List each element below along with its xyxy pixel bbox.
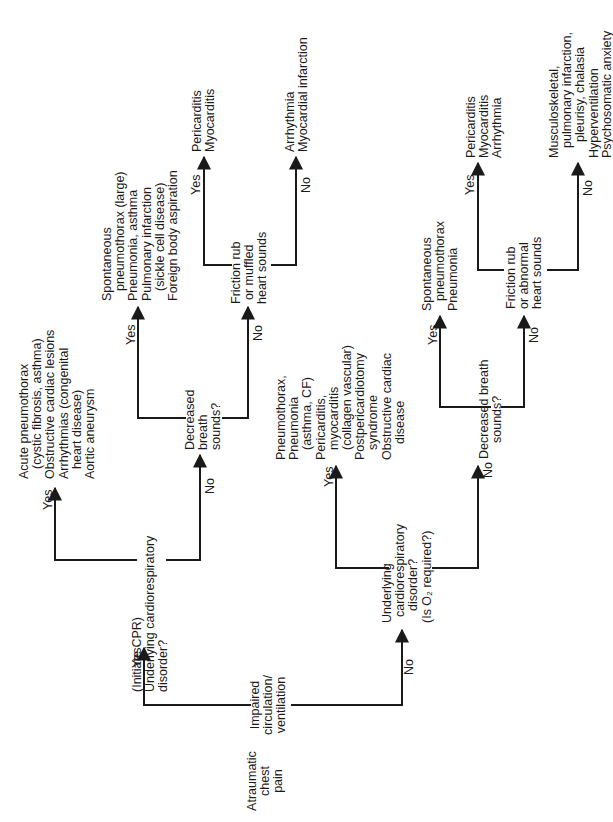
node-line: heart sounds (255, 232, 269, 304)
node-line: breath (196, 415, 210, 450)
node-line: Acute pneumothorax (17, 363, 31, 479)
node-dbs-1: Decreasedbreathsounds? (183, 390, 223, 450)
node-dbs1-yes-outcomes: Spontaneouspneumothorax (large)Pneumonia… (100, 170, 180, 301)
node-line: Arrhythmia (490, 98, 504, 158)
node-line: Myocarditis (203, 89, 217, 152)
svg-text:PericarditisMyocarditisArrhyth: PericarditisMyocarditisArrhythmia (464, 95, 504, 158)
node-line: Pericarditis, (314, 395, 328, 460)
edge-friction2-yes (478, 163, 504, 270)
node-friction-2: Friction rubor abnormalheart sounds (504, 237, 544, 309)
svg-text:ArrhythmiaMyocardial infarctio: ArrhythmiaMyocardial infarction (283, 37, 310, 152)
edge-o2-yes (336, 466, 389, 568)
node-line: ventilation (274, 677, 288, 733)
node-line: Pulmonary infarction (140, 187, 154, 301)
label-yes: Yes (41, 490, 55, 510)
edge-cpr-no (166, 455, 200, 560)
edge-friction2-no (547, 163, 578, 270)
node-line: Decreased breath (477, 360, 491, 459)
edge-dbs2-no (501, 316, 524, 407)
node-line: Obstructive cardiac (380, 353, 394, 460)
label-no: No (299, 177, 313, 193)
node-line: Obstructive cardiac lesions (43, 330, 57, 479)
node-line: pneumothorax (433, 220, 447, 301)
svg-text:Friction rubor muffledheart so: Friction rubor muffledheart sounds (229, 232, 269, 304)
node-dbs-2: Decreased breathsounds? (477, 360, 504, 459)
node-line: pain (271, 769, 285, 793)
node-line: syndrome (366, 395, 380, 450)
edge-dbs1-no (222, 307, 248, 418)
node-line: Musculoskeletal, (547, 66, 561, 158)
node-line: Pneumothorax, (274, 375, 288, 460)
edge-o2-no (432, 466, 478, 568)
node-line: (cystic fibrosis, asthma) (30, 338, 44, 469)
node-line: (sickle cell disease) (153, 183, 167, 291)
label-no: No (203, 478, 217, 494)
label-no: No (581, 180, 595, 196)
node-line: Arrhythmia (283, 92, 297, 152)
svg-text:Underlyingcardiorespiratorydis: Underlyingcardiorespiratorydisorder?(Is … (380, 523, 434, 623)
node-line: Underlying (380, 563, 394, 623)
node-impaired: Impairedcirculation/ventilation (248, 675, 288, 735)
node-line: Friction rub (504, 246, 518, 309)
node-line: Psychosomatic anxiety (600, 30, 613, 158)
node-line: Spontaneous (420, 237, 434, 311)
flowchart: Yes No Yes No Yes No Yes No Yes No Yes N… (0, 0, 613, 822)
edge-friction1-no (271, 157, 296, 265)
svg-text:Decreased breathsounds?: Decreased breathsounds? (477, 360, 504, 459)
node-line: Pneumonia, asthma (126, 190, 140, 301)
node-line: sounds? (490, 396, 504, 443)
node-line: sounds? (209, 403, 223, 450)
label-no: No (527, 327, 541, 343)
svg-text:(Initiate CPR)Underlying cardi: (Initiate CPR)Underlying cardiorespirato… (130, 535, 170, 692)
node-line: Atraumatic (245, 751, 259, 811)
node-cpr-disorder: (Initiate CPR)Underlying cardiorespirato… (130, 535, 170, 692)
node-friction1-no-outcomes: ArrhythmiaMyocardial infarction (283, 37, 310, 152)
svg-text:Spontaneouspneumothorax (large: Spontaneouspneumothorax (large)Pneumonia… (100, 170, 180, 301)
edge-impaired-no (291, 630, 402, 705)
node-line: (Initiate CPR) (130, 617, 144, 692)
label-yes: Yes (463, 175, 477, 195)
node-line: Hyperventilation (587, 68, 601, 158)
node-o2-disorder: Underlyingcardiorespiratorydisorder?(Is … (380, 523, 434, 623)
node-line: pneumothorax (large) (113, 171, 127, 291)
node-line: chest (258, 766, 272, 796)
node-line: Friction rub (229, 241, 243, 304)
label-no: No (251, 325, 265, 341)
node-line: Arrhythmias (congenital (57, 348, 71, 479)
node-line: Pericarditis (464, 96, 478, 158)
node-line: myocarditis (327, 387, 341, 450)
node-line: Pericarditis (190, 90, 204, 152)
svg-text:PericarditisMyocarditis: PericarditisMyocarditis (190, 89, 217, 152)
node-line: Myocardial infarction (296, 37, 310, 152)
node-line: (Is O₂ required?) (420, 531, 434, 623)
svg-text:Acute pneumothorax(cystic fibr: Acute pneumothorax(cystic fibrosis, asth… (17, 330, 97, 479)
svg-text:Friction rubor abnormalheart s: Friction rubor abnormalheart sounds (504, 237, 544, 309)
node-start: Atraumatic chest pain (245, 751, 285, 811)
svg-text:SpontaneouspneumothoraxPneumon: SpontaneouspneumothoraxPneumonia (420, 220, 460, 311)
svg-text:Pneumothorax,Pneumonia(asthma,: Pneumothorax,Pneumonia(asthma, CF)Perica… (274, 345, 407, 460)
node-line: (collagen vascular) (340, 345, 354, 450)
node-line: heart disease) (70, 390, 84, 469)
edge-cpr-yes (55, 488, 137, 560)
label-yes: Yes (426, 325, 440, 345)
node-line: (asthma, CF) (300, 377, 314, 450)
node-line: Spontaneous (100, 227, 114, 301)
label-yes: Yes (322, 467, 336, 487)
node-line: disorder? (156, 640, 170, 692)
node-line: Decreased (183, 390, 197, 450)
node-dbs2-yes-outcomes: SpontaneouspneumothoraxPneumonia (420, 220, 460, 311)
node-line: Postpericardiotomy (353, 352, 367, 460)
node-line: or abnormal (517, 242, 531, 309)
svg-text:Musculoskeletal,pulmonary infa: Musculoskeletal,pulmonary infarction,ple… (547, 30, 613, 158)
node-line: disease (393, 401, 407, 444)
svg-text:Impairedcirculation/ventilatio: Impairedcirculation/ventilation (248, 675, 288, 735)
node-line: heart sounds (530, 237, 544, 309)
edge-dbs1-yes (138, 307, 186, 418)
node-cpr-yes-outcomes: Acute pneumothorax(cystic fibrosis, asth… (17, 330, 97, 479)
node-line: cardiorespiratory (393, 523, 407, 617)
node-friction2-no-outcomes: Musculoskeletal,pulmonary infarction,ple… (547, 30, 613, 158)
edge-friction1-yes (204, 157, 232, 265)
label-no: No (481, 462, 495, 478)
node-line: Pneumonia (446, 248, 460, 311)
node-line: Aortic aneurysm (83, 389, 97, 479)
